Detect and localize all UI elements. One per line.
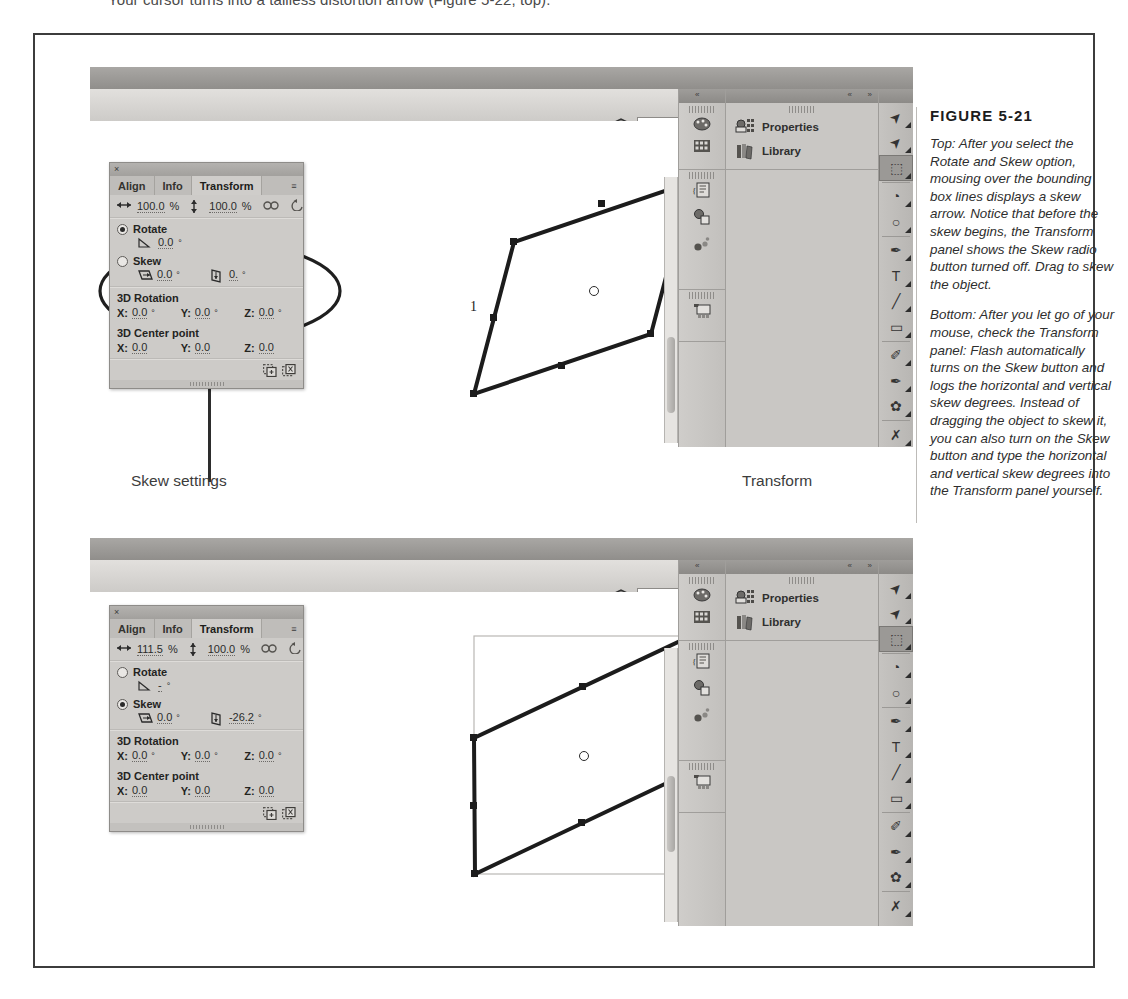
skew-horizontal-icon[interactable] bbox=[138, 712, 153, 724]
transform-center-point[interactable] bbox=[579, 751, 589, 761]
tool-options-triangle-icon[interactable] bbox=[905, 440, 911, 446]
rectangle-tool[interactable]: ▭ bbox=[879, 314, 913, 340]
rotate-radio[interactable] bbox=[117, 224, 128, 235]
collapsed-group-2[interactable]: { bbox=[679, 640, 725, 761]
rotate-option-row[interactable]: Rotate bbox=[110, 662, 303, 679]
scale-height-icon[interactable] bbox=[189, 200, 204, 212]
pen-tool[interactable]: ✒ bbox=[879, 238, 913, 264]
rectangle-tool[interactable]: ▭ bbox=[879, 785, 913, 811]
transform-center-point[interactable] bbox=[589, 286, 599, 296]
bone-tool[interactable]: ✗ bbox=[879, 422, 913, 447]
panel-grip[interactable] bbox=[689, 763, 715, 770]
actions-script-icon[interactable]: { bbox=[692, 652, 712, 670]
deco-tool[interactable]: ✿ bbox=[879, 394, 913, 420]
reset-transform-icon[interactable] bbox=[288, 644, 302, 656]
3d-rotation-value[interactable]: 0.0 bbox=[132, 306, 147, 319]
rotate-angle-value[interactable]: - bbox=[158, 679, 162, 692]
dock-item-properties[interactable]: Properties bbox=[726, 115, 878, 139]
tool-options-triangle-icon[interactable] bbox=[905, 386, 911, 392]
angle-icon[interactable] bbox=[138, 680, 153, 692]
tab-align[interactable]: Align bbox=[110, 176, 155, 195]
transform-panel-bottom[interactable]: ×AlignInfoTransform≡111.5%100.0%Rotate-°… bbox=[109, 605, 304, 832]
panel-grip[interactable] bbox=[689, 172, 715, 179]
tool-options-triangle-icon[interactable] bbox=[905, 306, 911, 312]
remove-transform-icon[interactable] bbox=[282, 364, 296, 377]
dock-header-main[interactable]: « » bbox=[726, 89, 878, 103]
dock-header-left[interactable]: « bbox=[679, 89, 725, 103]
close-icon[interactable]: × bbox=[114, 163, 119, 176]
angle-icon[interactable] bbox=[138, 237, 153, 249]
line-tool[interactable]: ╱ bbox=[879, 289, 913, 315]
selection-arrow-tool[interactable]: ➤ bbox=[879, 575, 913, 601]
3d-rotation-value[interactable]: 0.0 bbox=[195, 749, 210, 762]
handle-mid-top[interactable] bbox=[579, 683, 586, 690]
rotate-radio[interactable] bbox=[117, 667, 128, 678]
collapsed-group-1[interactable] bbox=[679, 103, 725, 170]
3d-center-value[interactable]: 0.0 bbox=[132, 341, 147, 354]
text-tool[interactable]: T bbox=[879, 734, 913, 760]
3d-rotation-tool[interactable]: ◔ bbox=[879, 184, 913, 210]
tool-options-triangle-icon[interactable] bbox=[905, 618, 911, 624]
tab-transform[interactable]: Transform bbox=[192, 176, 263, 195]
skew-horizontal-value[interactable]: 0.0 bbox=[157, 268, 172, 281]
dock-item-library[interactable]: Library bbox=[726, 610, 878, 634]
collapse-chevron-icon[interactable]: « bbox=[695, 91, 699, 99]
scale-height-icon[interactable] bbox=[188, 643, 203, 655]
handle-mid-top[interactable] bbox=[598, 200, 605, 207]
collapsed-panel-dock[interactable]: « bbox=[678, 560, 725, 926]
lasso-tool[interactable]: ○ bbox=[879, 209, 913, 235]
panel-grip[interactable] bbox=[689, 577, 715, 584]
tool-options-triangle-icon[interactable] bbox=[905, 911, 911, 917]
expanded-panel-dock[interactable]: « » bbox=[725, 89, 878, 447]
3d-center-value[interactable]: 0.0 bbox=[195, 341, 210, 354]
handle-mid-left[interactable] bbox=[490, 314, 497, 321]
free-transform-tool[interactable]: ⬚ bbox=[879, 155, 913, 181]
remove-transform-icon[interactable] bbox=[282, 807, 296, 820]
tool-options-triangle-icon[interactable] bbox=[905, 698, 911, 704]
tool-options-triangle-icon[interactable] bbox=[905, 857, 911, 863]
tool-options-triangle-icon[interactable] bbox=[905, 281, 911, 287]
3d-rotation-value[interactable]: 0.0 bbox=[259, 306, 274, 319]
scale-height-value[interactable]: 100.0 bbox=[208, 643, 236, 656]
expanded-panel-dock[interactable]: « » bbox=[725, 560, 878, 926]
tool-options-triangle-icon[interactable] bbox=[905, 726, 911, 732]
tool-options-triangle-icon[interactable] bbox=[905, 411, 911, 417]
subselection-arrow-tool[interactable]: ➤ bbox=[879, 130, 913, 156]
handle-bottom-left[interactable] bbox=[471, 870, 478, 877]
bone-tool[interactable]: ✗ bbox=[879, 893, 913, 919]
tool-options-triangle-icon[interactable] bbox=[905, 644, 911, 650]
handle-mid-bottom[interactable] bbox=[578, 819, 585, 826]
reset-transform-icon[interactable] bbox=[290, 201, 304, 213]
tool-options-triangle-icon[interactable] bbox=[905, 831, 911, 837]
tool-options-triangle-icon[interactable] bbox=[905, 777, 911, 783]
dock-header-left[interactable]: « bbox=[679, 560, 725, 574]
skew-vertical-value[interactable]: 0. bbox=[229, 268, 238, 281]
scale-width-icon[interactable] bbox=[117, 200, 132, 212]
tool-options-triangle-icon[interactable] bbox=[905, 803, 911, 809]
subselection-arrow-tool[interactable]: ➤ bbox=[879, 601, 913, 627]
collapsed-panel-dock[interactable]: « bbox=[678, 89, 725, 447]
scale-width-value[interactable]: 100.0 bbox=[137, 200, 165, 213]
panel-resize-grip[interactable] bbox=[110, 823, 303, 831]
dock-item-library[interactable]: Library bbox=[726, 139, 878, 163]
expand-chevron-icon[interactable]: » bbox=[868, 91, 872, 99]
brush-tool[interactable]: ✒ bbox=[879, 839, 913, 865]
motion-presets-icon[interactable] bbox=[692, 301, 712, 323]
tool-options-triangle-icon[interactable] bbox=[905, 752, 911, 758]
3d-rotation-value[interactable]: 0.0 bbox=[259, 749, 274, 762]
actions-script-icon[interactable]: { bbox=[692, 181, 712, 199]
line-tool[interactable]: ╱ bbox=[879, 760, 913, 786]
3d-center-value[interactable]: 0.0 bbox=[195, 784, 210, 797]
brush-tool[interactable]: ✒ bbox=[879, 368, 913, 394]
tools-panel[interactable]: ➤➤⬚◔○✒T╱▭✐✒✿✗◗ bbox=[878, 89, 913, 447]
color-swatch-palette-icon[interactable] bbox=[692, 115, 712, 133]
duplicate-selection-icon[interactable] bbox=[263, 807, 277, 820]
skew-option-row[interactable]: Skew bbox=[110, 694, 303, 711]
rotate-angle-value[interactable]: 0.0 bbox=[158, 236, 173, 249]
panel-grip[interactable] bbox=[689, 106, 715, 113]
tool-options-triangle-icon[interactable] bbox=[905, 227, 911, 233]
components-icon[interactable] bbox=[692, 679, 712, 697]
skew-horizontal-value[interactable]: 0.0 bbox=[157, 711, 172, 724]
color-grid-swatches-icon[interactable] bbox=[692, 138, 712, 156]
collapsed-group-1[interactable] bbox=[679, 574, 725, 641]
